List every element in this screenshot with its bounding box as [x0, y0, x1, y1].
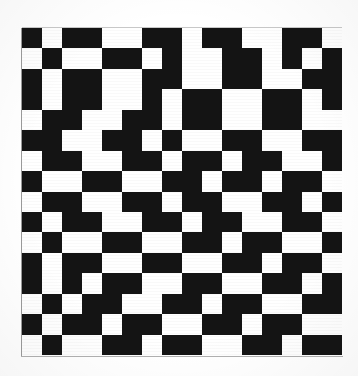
pattern-cell [122, 110, 142, 130]
pattern-cell [242, 192, 262, 212]
pattern-cell [162, 171, 182, 191]
pattern-cell [42, 314, 62, 334]
pattern-cell [122, 69, 142, 89]
pattern-cell [122, 294, 142, 314]
pattern-cell [262, 69, 282, 89]
pattern-cell [82, 28, 102, 48]
pattern-cell [42, 28, 62, 48]
pattern-cell [202, 48, 222, 68]
pattern-cell [262, 294, 282, 314]
pattern-cell [42, 232, 62, 252]
pattern-cell [302, 253, 322, 273]
pattern-cell [162, 69, 182, 89]
pattern-cell [82, 314, 102, 334]
pattern-cell [122, 335, 142, 355]
pattern-cell [202, 151, 222, 171]
pattern-cell [302, 232, 322, 252]
pattern-cell [82, 151, 102, 171]
pattern-cell [22, 253, 42, 273]
pattern-cell [322, 69, 342, 89]
pattern-cell [22, 232, 42, 252]
pattern-cell [222, 232, 242, 252]
pattern-cell [202, 212, 222, 232]
pattern-cell [262, 28, 282, 48]
pattern-cell [182, 28, 202, 48]
pattern-cell [142, 232, 162, 252]
pattern-cell [162, 212, 182, 232]
pattern-cell [202, 130, 222, 150]
pattern-cell [242, 110, 262, 130]
pattern-cell [262, 212, 282, 232]
pattern-cell [282, 232, 302, 252]
pattern-cell [42, 151, 62, 171]
pattern-cell [22, 89, 42, 109]
pattern-cell [142, 314, 162, 334]
pattern-cell [142, 335, 162, 355]
pattern-cell [222, 28, 242, 48]
pattern-cell [162, 232, 182, 252]
pattern-cell [262, 253, 282, 273]
pattern-cell [202, 89, 222, 109]
pattern-cell [82, 69, 102, 89]
pattern-cell [242, 232, 262, 252]
pattern-cell [302, 89, 322, 109]
pattern-cell [182, 69, 202, 89]
pattern-cell [62, 69, 82, 89]
pattern-cell [102, 253, 122, 273]
pattern-cell [322, 273, 342, 293]
pattern-cell [42, 171, 62, 191]
pattern-cell [62, 110, 82, 130]
pattern-cell [302, 69, 322, 89]
pattern-cell [122, 89, 142, 109]
pattern-cell [242, 48, 262, 68]
pattern-cell [162, 28, 182, 48]
pattern-cell [322, 89, 342, 109]
pattern-cell [322, 110, 342, 130]
pattern-cell [282, 110, 302, 130]
pattern-cell [122, 28, 142, 48]
pattern-cell [182, 48, 202, 68]
pattern-cell [102, 28, 122, 48]
pattern-cell [142, 294, 162, 314]
pattern-cell [62, 48, 82, 68]
pattern-cell [222, 171, 242, 191]
pattern-cell [222, 130, 242, 150]
pattern-cell [102, 110, 122, 130]
pattern-cell [62, 314, 82, 334]
pattern-cell [122, 151, 142, 171]
pattern-cell [142, 273, 162, 293]
pattern-cell [262, 110, 282, 130]
pattern-cell [22, 48, 42, 68]
pattern-cell [42, 335, 62, 355]
pattern-cell [262, 171, 282, 191]
pattern-cell [62, 273, 82, 293]
pattern-cell [122, 192, 142, 212]
pattern-cell [182, 171, 202, 191]
pattern-cell [262, 273, 282, 293]
pattern-cell [142, 89, 162, 109]
pattern-cell [222, 69, 242, 89]
pattern-cell [282, 192, 302, 212]
pattern-cell [302, 212, 322, 232]
pattern-cell [82, 212, 102, 232]
pattern-cell [302, 110, 322, 130]
pattern-cell [322, 253, 342, 273]
pattern-cell [162, 335, 182, 355]
pattern-cell [22, 192, 42, 212]
checkerboard-pattern-plate [22, 28, 342, 355]
pattern-cell [162, 151, 182, 171]
pattern-cell [302, 294, 322, 314]
pattern-cell [102, 48, 122, 68]
pattern-cell [302, 151, 322, 171]
pattern-cell [82, 253, 102, 273]
pattern-cell [322, 232, 342, 252]
pattern-cell [322, 314, 342, 334]
pattern-cell [102, 335, 122, 355]
pattern-cell [62, 151, 82, 171]
pattern-cell [122, 130, 142, 150]
pattern-cell [42, 192, 62, 212]
pattern-cell [242, 130, 262, 150]
pattern-cell [222, 192, 242, 212]
pattern-cell [202, 314, 222, 334]
pattern-cell [222, 89, 242, 109]
